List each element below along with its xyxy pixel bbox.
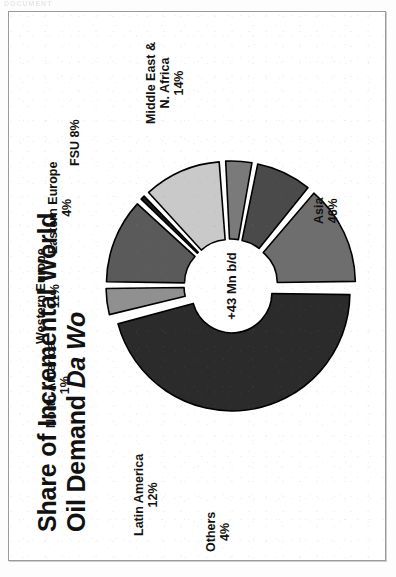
slice-label-western-europe-value: 11% [49, 248, 63, 344]
slice-label-western-europe-name: Western Europe [34, 248, 48, 344]
slice-label-latin-america-value: 12% [147, 454, 161, 536]
slice-label-fsu-name: FSU 8% [68, 119, 82, 166]
slice-label-others-name: Others [204, 512, 218, 552]
slice-label-eastern-europe-name: Eastern Europe [46, 162, 60, 254]
slice-label-middle-east-n-africa-name1: Middle East & [144, 42, 158, 124]
slice-label-eastern-europe-value: 4% [61, 162, 75, 254]
slice-label-fsu: FSU 8% [69, 119, 83, 166]
scan-header-artifact: DOCUMENT [4, 0, 122, 7]
slice-label-north-america-value: 1% [59, 342, 73, 428]
slice-label-north-america-name: North America [44, 342, 58, 428]
slice-label-others: Others 4% [205, 512, 233, 552]
slice-label-middle-east-n-africa-value: 14% [173, 42, 187, 124]
slice-label-asia: Asia 46% [313, 198, 341, 224]
slide-canvas: Share of Incremental World Oil Demand Da… [17, 18, 377, 554]
rotated-slide-wrapper: Share of Incremental World Oil Demand Da… [17, 18, 377, 554]
pie-chart: +43 Mn b/d [95, 150, 367, 422]
donut-center-hub: +43 Mn b/d [192, 247, 270, 325]
slice-label-north-america: North America 1% [45, 342, 73, 428]
slice-label-western-europe: Western Europe 11% [35, 248, 63, 344]
slice-label-latin-america-name: Latin America [132, 454, 146, 536]
donut-center-total-label: +43 Mn b/d [224, 252, 239, 320]
slice-label-eastern-europe: Eastern Europe 4% [47, 162, 75, 254]
slice-label-middle-east-n-africa-name2: N. Africa [159, 42, 173, 124]
slice-label-latin-america: Latin America 12% [133, 454, 161, 536]
slice-label-others-value: 4% [219, 512, 233, 552]
slice-label-asia-name: Asia [312, 198, 326, 224]
slice-label-middle-east-n-africa: Middle East & N. Africa 14% [145, 42, 186, 124]
slide-page-frame: Share of Incremental World Oil Demand Da… [8, 11, 386, 561]
slice-label-asia-value: 46% [327, 198, 341, 224]
